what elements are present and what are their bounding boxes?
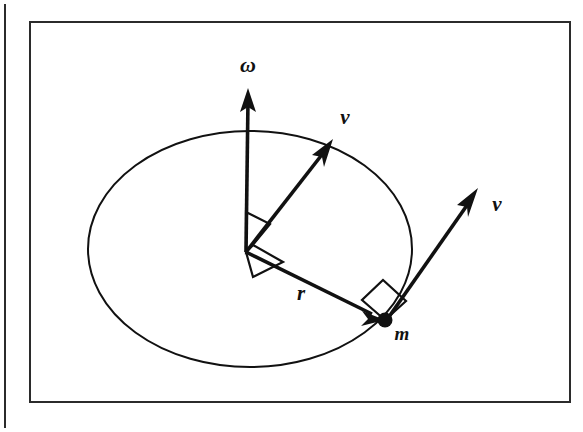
figure-root: ω v r v m xyxy=(0,0,583,432)
v-mass-label: v xyxy=(492,192,502,216)
figure-background xyxy=(0,0,583,432)
mass-point-dot xyxy=(378,313,393,328)
v-center-label: v xyxy=(340,105,350,129)
r-label: r xyxy=(297,281,306,305)
omega-label: ω xyxy=(240,52,256,77)
mass-label: m xyxy=(395,323,410,344)
physics-diagram-svg: ω v r v m xyxy=(0,0,583,432)
